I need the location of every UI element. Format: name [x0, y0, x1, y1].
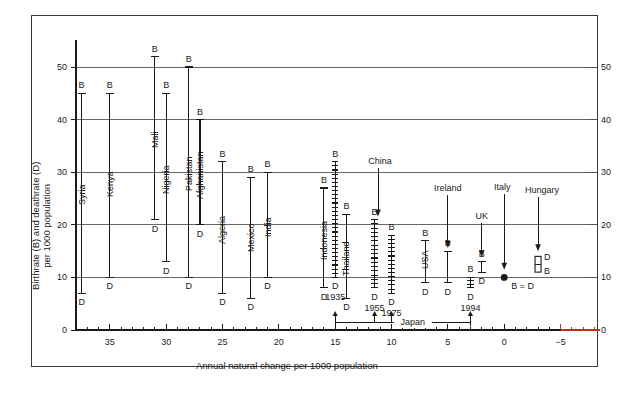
chart-frame	[31, 15, 598, 367]
country-uk-label-d: D	[478, 277, 485, 286]
japan-1994-label-d: D	[467, 292, 474, 301]
japan-1975-label-b: B	[389, 223, 395, 232]
japan-1955-label-d: D	[371, 292, 378, 301]
annotation-uk-label: UK	[475, 212, 488, 221]
japan-1975-label-d: D	[388, 298, 395, 307]
japan-1955-label-b: B	[372, 207, 378, 216]
country-thailand-label-d: D	[343, 303, 350, 312]
country-usa-name: USA	[421, 250, 430, 269]
y-axis-title: Birthrate (B) and deathrate (D)per 1000 …	[30, 162, 52, 290]
y-tick-label-left-4: 40	[57, 115, 67, 124]
y-tick-label-left-1: 10	[57, 273, 67, 282]
japan-1975-year-label: 1975	[382, 309, 402, 318]
chart-page: 35302520151050−50010102020303040405050BD…	[0, 0, 629, 394]
japan-1994-year-label: 1994	[460, 303, 480, 312]
country-mexico-label-b: B	[248, 165, 254, 174]
country-afghanistan-label-d: D	[197, 229, 204, 238]
y-axis-title-line1: Birthrate (B) and deathrate (D)	[30, 162, 41, 290]
country-syria-label-b: B	[79, 81, 85, 90]
country-india-name: India	[264, 217, 273, 237]
country-usa-label-b: B	[422, 228, 428, 237]
country-indonesia-label-b: B	[321, 176, 327, 185]
country-nigeria-name: Nigeria	[162, 166, 171, 195]
japan-1935-label-d: D	[332, 282, 339, 291]
annotation-ireland-label: Ireland	[434, 184, 462, 193]
x-tick-label-8: −5	[555, 338, 565, 347]
japan-series-label: Japan	[401, 318, 426, 327]
country-afghanistan-label-b: B	[197, 107, 203, 116]
country-thailand-name: Thailand	[342, 241, 351, 276]
y-tick-label-right-5: 50	[601, 63, 611, 72]
y-tick-label-right-1: 10	[601, 273, 611, 282]
x-tick-label-2: 25	[217, 338, 227, 347]
country-algeria-name: Algeria	[218, 216, 227, 244]
country-pakistan-label-d: D	[185, 282, 192, 291]
country-nigeria-label-b: B	[163, 81, 169, 90]
country-hungary-label-b: B	[544, 267, 550, 276]
country-uk-label-b: B	[479, 249, 485, 258]
y-tick-label-left-5: 50	[57, 63, 67, 72]
country-italy-dot-label: B = D	[511, 282, 534, 291]
country-algeria-label-b: B	[219, 149, 225, 158]
country-nigeria-label-d: D	[163, 266, 170, 275]
x-tick-label-7: 0	[502, 338, 507, 347]
annotation-italy-label: Italy	[494, 183, 511, 192]
annotation-hungary-label: Hungary	[525, 186, 559, 195]
y-tick-label-right-4: 40	[601, 115, 611, 124]
y-tick-label-right-3: 30	[601, 168, 611, 177]
country-mexico-label-d: D	[247, 303, 254, 312]
y-tick-label-right-2: 20	[601, 220, 611, 229]
country-mali-label-d: D	[152, 224, 159, 233]
y-axis-title-line2: per 1000 population	[41, 162, 52, 290]
country-hungary-label-d: D	[544, 253, 551, 262]
country-kenya-label-b: B	[107, 81, 113, 90]
country-kenya-label-d: D	[107, 282, 114, 291]
country-usa-label-d: D	[422, 287, 429, 296]
country-thailand-label-b: B	[343, 202, 349, 211]
country-indonesia-name: Indonesia	[320, 221, 329, 260]
x-tick-label-0: 35	[105, 338, 115, 347]
country-algeria-label-d: D	[219, 298, 226, 307]
country-india-label-d: D	[264, 282, 271, 291]
japan-1935-label-b: B	[332, 149, 338, 158]
x-tick-label-3: 20	[274, 338, 284, 347]
country-pakistan-label-b: B	[186, 55, 192, 64]
y-tick-label-left-0: 0	[62, 326, 67, 335]
country-syria-label-d: D	[78, 298, 85, 307]
japan-1935-year-label: 1935	[325, 293, 345, 302]
japan-1994-label-b: B	[467, 265, 473, 274]
annotation-china-label: China	[368, 157, 392, 166]
x-axis-title: Annual natural change per 1000 populatio…	[196, 360, 378, 371]
country-afghanistan-name: Afghanistan	[196, 151, 205, 199]
y-tick-label-right-0: 0	[601, 326, 606, 335]
country-syria-name: Syria	[78, 185, 87, 206]
country-ireland-label-b: B	[445, 239, 451, 248]
country-ireland-label-d: D	[445, 287, 452, 296]
x-tick-label-5: 10	[387, 338, 397, 347]
x-tick-label-6: 5	[445, 338, 450, 347]
country-mali-name: Mali	[151, 131, 160, 148]
x-tick-label-4: 15	[330, 338, 340, 347]
country-mexico-name: Mexico	[247, 224, 256, 253]
country-mali-label-b: B	[152, 44, 158, 53]
country-india-label-b: B	[265, 160, 271, 169]
country-pakistan-name: Pakistan	[185, 157, 194, 192]
country-kenya-name: Kenya	[106, 172, 115, 198]
x-tick-label-1: 30	[161, 338, 171, 347]
y-tick-label-left-2: 20	[57, 220, 67, 229]
y-tick-label-left-3: 30	[57, 168, 67, 177]
